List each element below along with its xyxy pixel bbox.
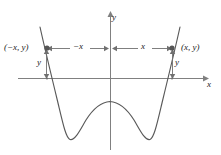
y-axis	[108, 11, 114, 150]
right-point-label: (x, y)	[181, 43, 199, 52]
measure-neg-x-label: −x	[73, 42, 83, 51]
axis-foot-left	[46, 77, 48, 79]
axis-foot-right	[171, 77, 173, 79]
measure-pos-x-label: x	[141, 42, 145, 51]
point-marker-right	[169, 45, 174, 50]
measure-y-right-label: y	[175, 58, 179, 67]
measure-y-left-label: y	[37, 58, 41, 67]
measure-pos-x-arrowhead-left-icon	[112, 46, 117, 51]
even-function-figure: y x (−x, y) (x, y) −x x y y	[0, 0, 221, 155]
measure-neg-x-arrowhead-right-icon	[104, 46, 109, 51]
point-marker-left	[44, 45, 49, 50]
left-point-label: (−x, y)	[4, 43, 29, 52]
figure-canvas	[0, 0, 221, 155]
x-axis-label: x	[207, 80, 211, 89]
y-axis-label: y	[112, 13, 116, 22]
